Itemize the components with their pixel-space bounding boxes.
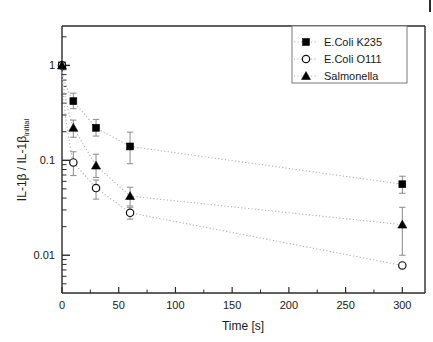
data-point-triangle xyxy=(69,123,78,131)
data-point-triangle xyxy=(92,161,101,169)
x-tick-label: 0 xyxy=(59,299,65,311)
fit-curve-1 xyxy=(62,65,402,265)
y-axis-tick-labels: 10.10.01 xyxy=(34,59,55,261)
y-axis-title: IL-1β / IL-1βinitial xyxy=(15,119,31,202)
data-point-triangle xyxy=(398,220,407,228)
data-point-circle xyxy=(399,262,406,269)
data-point-square xyxy=(70,98,77,105)
legend-marker-0-square xyxy=(303,39,310,46)
chart-figure: 050100150200250300 10.10.01 Time [s] IL-… xyxy=(0,0,433,342)
x-tick-label: 250 xyxy=(336,299,354,311)
error-bars xyxy=(70,93,405,255)
legend-marker-1-circle xyxy=(302,55,309,62)
x-tick-label: 50 xyxy=(113,299,125,311)
legend-label-0[interactable]: E.Coli K235 xyxy=(324,36,382,48)
x-tick-label: 100 xyxy=(166,299,184,311)
x-axis-tick-labels: 050100150200250300 xyxy=(59,299,412,311)
chart-canvas: 050100150200250300 10.10.01 Time [s] IL-… xyxy=(0,0,433,342)
data-point-triangle xyxy=(126,192,135,200)
y-axis-title-main: IL-1β / IL-1β xyxy=(15,136,29,201)
y-tick-label: 1 xyxy=(49,59,55,71)
x-axis-ticks xyxy=(62,287,402,293)
y-tick-label: 0.01 xyxy=(34,249,55,261)
x-axis-title: Time [s] xyxy=(222,319,264,333)
data-point-circle xyxy=(126,209,133,216)
y-tick-label: 0.1 xyxy=(40,154,55,166)
data-point-circle xyxy=(70,159,77,166)
chart-legend[interactable]: E.Coli K235E.Coli O111Salmonella xyxy=(292,26,407,83)
x-tick-label: 300 xyxy=(393,299,411,311)
y-axis-ticks xyxy=(62,37,70,284)
legend-label-1[interactable]: E.Coli O111 xyxy=(324,53,382,65)
x-tick-label: 150 xyxy=(223,299,241,311)
data-point-square xyxy=(399,181,406,188)
x-tick-label: 200 xyxy=(280,299,298,311)
corner-artifact-mark xyxy=(429,0,431,12)
y-axis-title-subscript: initial xyxy=(22,119,31,136)
data-point-square xyxy=(93,124,100,131)
data-markers xyxy=(58,61,407,269)
data-point-circle xyxy=(92,184,99,191)
legend-label-2[interactable]: Salmonella xyxy=(324,70,379,82)
y-axis-title-group: IL-1β / IL-1βinitial xyxy=(15,119,31,202)
fit-curves xyxy=(62,65,402,265)
data-point-square xyxy=(127,143,134,150)
